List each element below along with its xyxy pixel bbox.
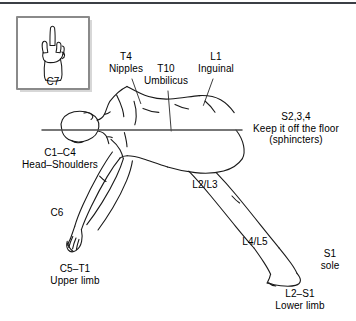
label-c1c4-head-shoulders: C1–C4 Head–Shoulders (4, 147, 116, 170)
label-c5t1-line1: C5–T1 (25, 263, 125, 275)
label-c6: C6 (37, 207, 77, 219)
label-t10-line2: Umbilicus (131, 75, 201, 87)
label-s1-sole: S1 sole (305, 248, 355, 271)
label-l2s1-line1: L2–S1 (250, 288, 350, 300)
label-l1-line1: L1 (186, 51, 246, 63)
label-l4l5: L4/L5 (225, 236, 285, 248)
torso-upper-outline (110, 86, 234, 124)
neck-shoulder-outline (97, 102, 112, 144)
label-s1-line1: S1 (305, 248, 355, 260)
label-c1c4-line1: C1–C4 (4, 147, 116, 159)
label-l2s1-line2: Lower limb (250, 300, 350, 312)
label-s234-line2: Keep it off the floor (236, 123, 356, 135)
dermatome-diagram: C7 T4 Nipples T10 Umbilicus L1 Inguinal … (0, 0, 356, 321)
label-s234-line3: (sphincters) (236, 134, 356, 146)
label-s234-line1: S2,3,4 (236, 111, 356, 123)
label-l2s1-lower-limb: L2–S1 Lower limb (250, 288, 350, 311)
label-c5t1-upper-limb: C5–T1 Upper limb (25, 263, 125, 286)
label-c1c4-line2: Head–Shoulders (4, 159, 116, 171)
leader-lines (132, 79, 213, 131)
label-l1-inguinal: L1 Inguinal (186, 51, 246, 74)
label-s1-line2: sole (305, 260, 355, 272)
label-l2l3-line1: L2/L3 (175, 179, 235, 191)
label-l2l3: L2/L3 (175, 179, 235, 191)
label-l4l5-line1: L4/L5 (225, 236, 285, 248)
label-c5t1-line2: Upper limb (25, 275, 125, 287)
label-s234-sphincters: S2,3,4 Keep it off the floor (sphincters… (236, 111, 356, 146)
label-t4-line1: T4 (96, 51, 156, 63)
label-c6-line1: C6 (37, 207, 77, 219)
head-outline (61, 111, 99, 143)
inset-caption-c7: C7 (17, 76, 89, 87)
label-l1-line2: Inguinal (186, 63, 246, 75)
